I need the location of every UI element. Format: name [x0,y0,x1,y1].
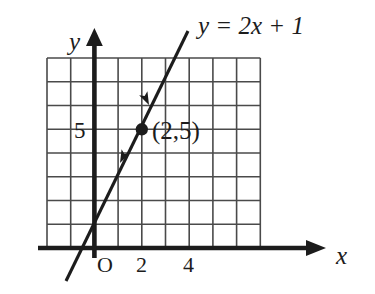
x-tick-label-2: 2 [136,252,147,277]
coordinate-plane-svg: y x O 2 4 5 (2,5) y = 2x + 1 [0,0,375,294]
grid-lines [47,58,260,248]
plotted-point-marker [136,123,148,135]
x-axis-arrowhead-icon [306,240,326,256]
plotted-line-y-equals-2x-plus-1 [66,31,188,281]
x-tick-label-4: 4 [183,252,194,277]
graph-figure: y x O 2 4 5 (2,5) y = 2x + 1 [0,0,375,294]
y-axis-arrowhead-icon [86,28,103,46]
origin-label: O [97,252,113,277]
equation-label: y = 2x + 1 [195,12,304,39]
y-tick-label-5: 5 [74,118,86,143]
y-axis-label: y [66,28,81,55]
x-axis-label: x [335,242,347,269]
point-coordinate-label: (2,5) [152,117,200,145]
